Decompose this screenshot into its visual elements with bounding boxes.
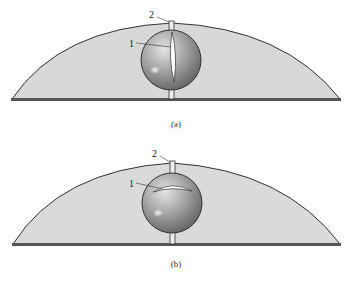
highlight-b: [153, 209, 163, 217]
caption-b: (b): [171, 259, 182, 269]
highlight-a: [150, 66, 160, 74]
label-2-a: 2: [149, 9, 154, 20]
panel-a: 1 2 (a): [11, 9, 341, 129]
panel-b: 1 2 (b): [12, 148, 341, 269]
caption-a: (a): [171, 119, 181, 129]
leader-2-a: [157, 17, 169, 22]
label-1-b: 1: [129, 178, 134, 189]
label-2-b: 2: [152, 148, 157, 159]
peg-bottom-b: [170, 232, 175, 244]
leader-2-b: [160, 156, 170, 162]
base-a: [11, 98, 341, 101]
peg-top-b: [170, 161, 175, 174]
sphere-b: [142, 173, 202, 233]
figure-canvas: 1 2 (a) 1 2 (b): [0, 0, 350, 281]
label-1-a: 1: [129, 38, 134, 49]
base-b: [12, 243, 341, 246]
